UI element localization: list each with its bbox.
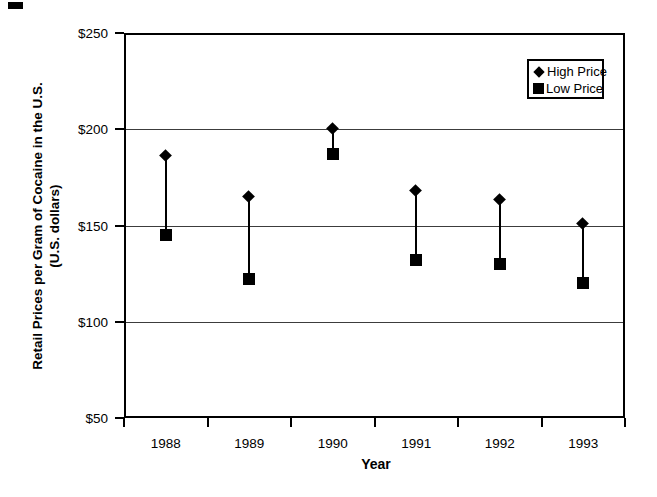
legend-label-low-price: Low Price (546, 81, 603, 96)
legend-item-high-price: High Price (533, 63, 602, 80)
y-tick-label-150: $150 (38, 218, 108, 235)
x-tick-label-1991: 1991 (381, 436, 451, 451)
diamond-marker-icon (533, 66, 544, 77)
legend-item-low-price: Low Price (533, 80, 602, 97)
high-price-marker-1989 (242, 190, 255, 203)
x-axis-title: Year (346, 456, 406, 472)
y-tick-150 (115, 225, 124, 227)
high-price-marker-1993 (576, 217, 589, 230)
y-tick-200 (115, 128, 124, 130)
x-tick-label-1988: 1988 (131, 436, 201, 451)
high-price-marker-1992 (493, 194, 506, 207)
x-tick-label-1993: 1993 (548, 436, 618, 451)
x-tick-4 (457, 418, 459, 427)
low-price-marker-1993 (577, 277, 589, 289)
range-line-1993 (582, 224, 584, 284)
y-tick-label-100: $100 (38, 314, 108, 331)
y-tick-250 (115, 32, 124, 34)
gridline-100 (126, 322, 623, 323)
x-tick-3 (374, 418, 376, 427)
gridline-150 (126, 226, 623, 227)
x-tick-0 (123, 418, 125, 427)
x-tick-label-1992: 1992 (465, 436, 535, 451)
low-price-marker-1990 (327, 148, 339, 160)
y-tick-label-200: $200 (38, 121, 108, 138)
y-tick-label-50: $50 (38, 410, 108, 427)
low-price-marker-1989 (243, 273, 255, 285)
low-price-marker-1992 (494, 258, 506, 270)
x-tick-label-1990: 1990 (298, 436, 368, 451)
x-tick-2 (290, 418, 292, 427)
scan-speck (8, 2, 23, 9)
low-price-marker-1988 (160, 229, 172, 241)
x-tick-1 (207, 418, 209, 427)
chart-figure: Retail Prices per Gram of Cocaine in the… (0, 0, 657, 497)
square-marker-icon (533, 83, 544, 94)
high-price-marker-1988 (159, 149, 172, 162)
y-tick-label-250: $250 (38, 25, 108, 42)
low-price-marker-1991 (410, 254, 422, 266)
y-tick-100 (115, 321, 124, 323)
high-price-marker-1990 (326, 122, 339, 135)
range-line-1989 (248, 197, 250, 280)
x-tick-5 (541, 418, 543, 427)
range-line-1991 (415, 191, 417, 260)
legend: High Price Low Price (527, 59, 604, 99)
gridline-200 (126, 129, 623, 130)
range-line-1988 (165, 156, 167, 235)
range-line-1992 (499, 200, 501, 264)
x-tick-6 (624, 418, 626, 427)
x-tick-label-1989: 1989 (214, 436, 284, 451)
high-price-marker-1991 (409, 184, 422, 197)
legend-label-high-price: High Price (547, 64, 607, 79)
